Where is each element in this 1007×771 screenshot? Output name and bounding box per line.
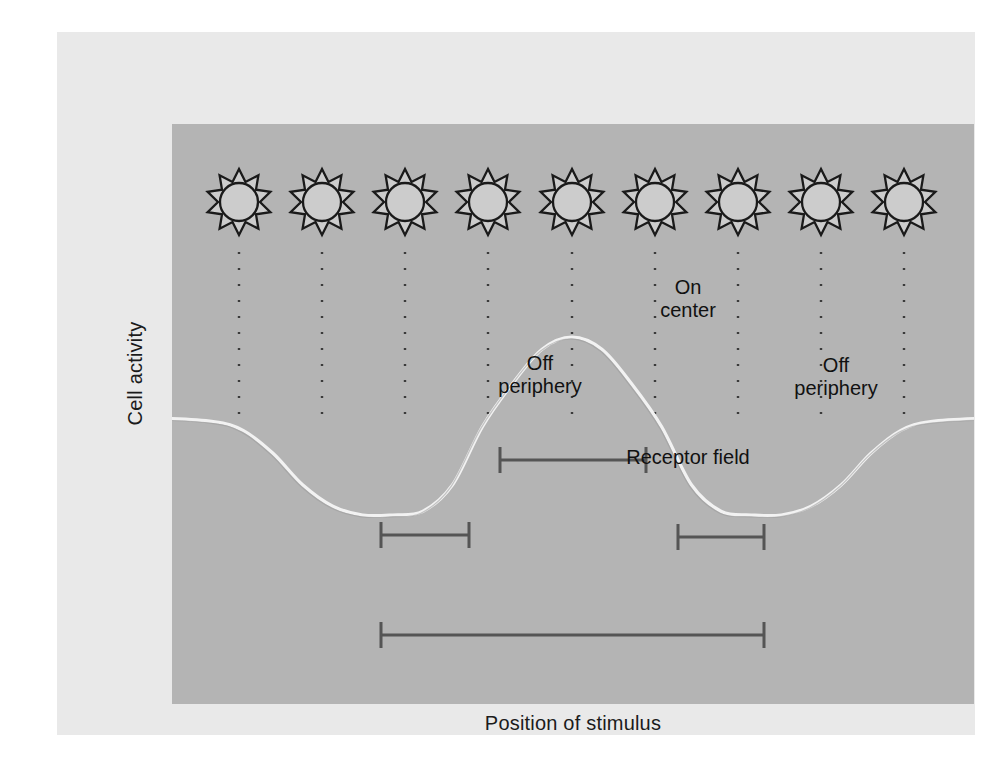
plot-svg — [172, 124, 974, 704]
x-axis-label: Position of stimulus — [172, 712, 974, 735]
sun-icon — [208, 169, 271, 235]
sun-icon — [541, 169, 604, 235]
bracket-label-on-center: On center — [568, 276, 808, 322]
sun-icon — [291, 169, 354, 235]
bracket-receptor-field — [381, 622, 764, 648]
bracket-label-receptor-field: Receptor field — [478, 446, 898, 469]
stimulus-icons-group — [208, 169, 936, 235]
sun-icon — [707, 169, 770, 235]
sun-icon — [790, 169, 853, 235]
measurement-brackets — [381, 447, 764, 648]
sun-icon — [624, 169, 687, 235]
figure-outer-panel: On center Off periphery Off periphery Re… — [57, 32, 975, 735]
plot-area: On center Off periphery Off periphery Re… — [172, 124, 974, 704]
sun-icon — [374, 169, 437, 235]
bracket-off-periphery-right — [678, 524, 764, 550]
bracket-label-off-periphery-right: Off periphery — [736, 354, 936, 400]
figure-receptive-field: On center Off periphery Off periphery Re… — [0, 0, 1007, 771]
y-axis-label: Cell activity — [124, 274, 147, 474]
sun-icon — [457, 169, 520, 235]
bracket-off-periphery-left — [381, 522, 469, 548]
bracket-label-off-periphery-left: Off periphery — [440, 352, 640, 398]
sun-icon — [873, 169, 936, 235]
